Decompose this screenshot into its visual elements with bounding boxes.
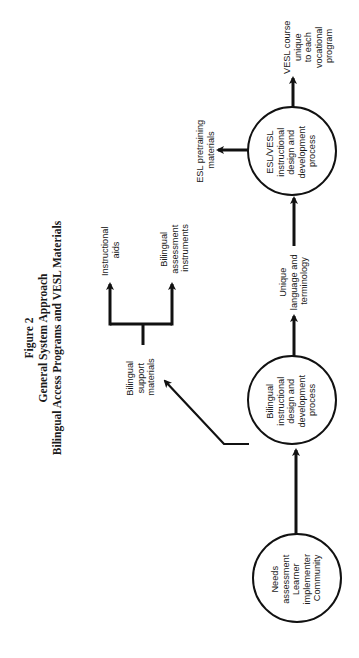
support-bracket [110,324,172,345]
edge-bilingual-to-support [165,381,249,444]
label-esl-pretraining-materials: ESL pretraining materials [195,117,216,183]
label-bilingual-support-materials: Bilingual support materials [125,358,156,396]
node-esl-vesl-process: ESL/VESL instructional design and develo… [248,107,336,195]
figure-title: Figure 2 General System Approach Bilingu… [23,220,64,455]
figure-number: Figure 2 [23,317,36,358]
node-bilingual-process: Bilingual instructional design and devel… [248,356,336,444]
figure-title-line1: General System Approach [37,273,50,402]
diagram-canvas: Figure 2 General System Approach Bilingu… [0,0,359,658]
label-bilingual-assessment-instruments: Bilingual assessment instruments [159,222,190,274]
label-vesl-course: VESL course unique to each vocational pr… [282,18,334,74]
figure-title-line2: Bilingual Access Programs and VESL Mater… [51,220,64,455]
label-instructional-aids: Instructional aids [100,224,121,276]
node-needs-assessment: Needs assessment Learner implementer Com… [253,534,341,622]
label-unique-language-terminology: Unique language and terminology [278,252,309,310]
